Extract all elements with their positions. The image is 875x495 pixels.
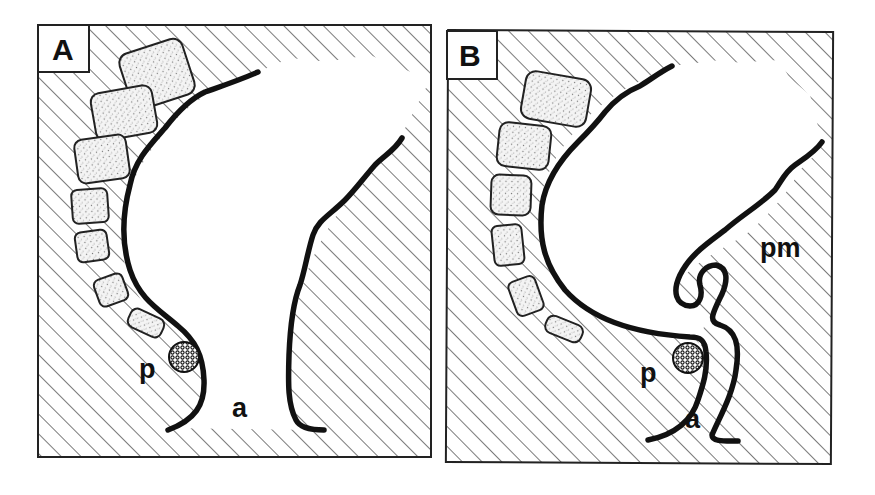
figure: A p a B p a pm xyxy=(0,0,875,495)
label-p-b: p xyxy=(640,358,657,388)
vertebra xyxy=(490,174,531,215)
vertebra xyxy=(71,188,109,224)
vertebra xyxy=(491,224,525,267)
label-p-a: p xyxy=(139,354,156,384)
vertebra xyxy=(519,70,592,129)
panel-a: A p a xyxy=(38,25,431,457)
vertebra xyxy=(74,229,110,263)
label-pm-b: pm xyxy=(760,233,801,263)
puborectalis-b xyxy=(673,343,703,373)
panel-b: B p a pm xyxy=(446,30,833,464)
vertebra xyxy=(496,121,552,170)
vertebra xyxy=(73,134,131,185)
vertebra xyxy=(89,84,158,142)
label-a-b: a xyxy=(685,404,701,434)
label-a-a: a xyxy=(232,393,248,423)
puborectalis-a xyxy=(169,342,199,372)
panel-b-label: B xyxy=(459,39,481,72)
panel-a-label: A xyxy=(52,33,74,66)
